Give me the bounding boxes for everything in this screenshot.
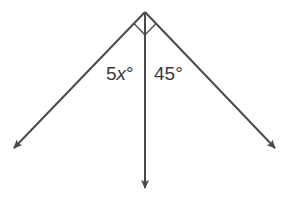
right-angle-marker-left (134, 24, 145, 36)
right-angle-marker-right (145, 24, 156, 36)
right-angle-label: 45° (154, 63, 183, 84)
angle-diagram: 5x° 45° (0, 0, 287, 200)
left-angle-label: 5x° (106, 63, 134, 84)
